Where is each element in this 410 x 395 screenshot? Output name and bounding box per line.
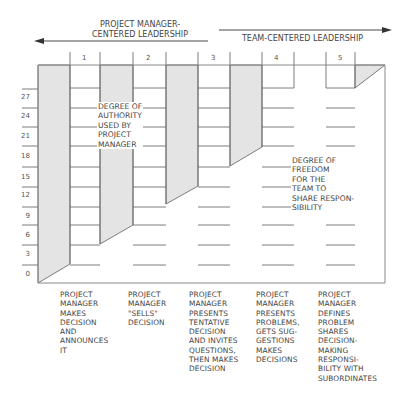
y-label-18: 18 (16, 152, 30, 160)
style-3-description: PROJECT MANAGER PRESENTS TENTATIVE DECIS… (189, 290, 238, 374)
team-centered-leadership-label: TEAM-CENTERED LEADERSHIP (230, 34, 375, 44)
y-label-21: 21 (16, 132, 30, 140)
column-number-4: 4 (274, 54, 278, 62)
y-label-6: 6 (16, 231, 30, 239)
style-4-description: PROJECT MANAGER PRESENTS PROBLEMS, GETS … (256, 290, 300, 364)
style-5-description: PROJECT MANAGER DEFINES PROBLEM SHARES D… (318, 290, 377, 383)
column-number-1: 1 (82, 54, 86, 62)
authority-region-label: DEGREE OF AUTHORITY USED BY PROJECT MANA… (97, 102, 143, 149)
y-label-9: 9 (16, 212, 30, 220)
team-centered-arrow (219, 27, 392, 33)
style-1-description: PROJECT MANAGER MAKES DECISION AND ANNOU… (60, 290, 108, 355)
y-label-24: 24 (16, 112, 30, 120)
freedom-region-label: DEGREE OF FREEDOM FOR THE TEAM TO SHARE … (291, 156, 355, 212)
y-label-27: 27 (16, 93, 30, 101)
pm-centered-leadership-label: PROJECT MANAGER- CENTERED LEADERSHIP (75, 20, 205, 40)
column-number-2: 2 (146, 54, 150, 62)
y-label-0: 0 (16, 270, 30, 278)
style-2-description: PROJECT MANAGER "SELLS" DECISION (128, 290, 166, 327)
column-number-3: 3 (211, 54, 215, 62)
y-label-3: 3 (16, 250, 30, 258)
column-number-5: 5 (338, 54, 342, 62)
y-label-15: 15 (16, 173, 30, 181)
y-label-12: 12 (16, 191, 30, 199)
